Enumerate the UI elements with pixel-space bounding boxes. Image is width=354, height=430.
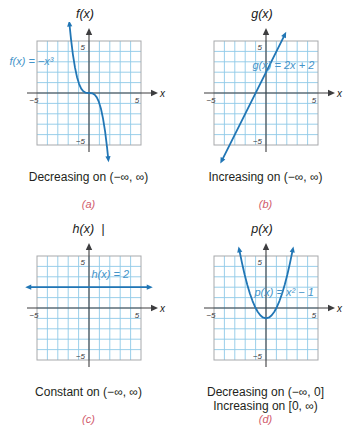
caption-line: Increasing on (−∞, ∞) xyxy=(208,170,322,184)
x-min-tick: −5 xyxy=(206,96,216,105)
equation-label: h(x) = 2 xyxy=(92,268,130,280)
caption-line: Constant on (−∞, ∞) xyxy=(35,385,142,399)
y-axis-arrow-icon xyxy=(262,243,268,250)
x-axis-arrow-icon xyxy=(151,305,158,311)
curve-arrow-icon xyxy=(25,285,31,290)
curve-arrow-icon xyxy=(146,285,152,290)
curve-arrow-icon xyxy=(289,246,294,252)
y-max-tick: 5 xyxy=(80,258,85,267)
curve-arrow-icon xyxy=(237,246,242,252)
graph-d-svg: −5 5 5 −5 x xyxy=(181,237,351,379)
x-axis-arrow-icon xyxy=(328,90,335,96)
y-max-tick: 5 xyxy=(257,258,262,267)
function-name: h(x) xyxy=(73,222,95,236)
panel-a: f(x) −5 5 5 −5 x f(x) = −x³ Decreasing o… xyxy=(0,0,177,215)
graph-c-svg: −5 5 5 −5 x xyxy=(4,237,174,379)
x-axis-label: x xyxy=(159,303,166,314)
y-axis-arrow-icon xyxy=(262,28,268,35)
curve-arrow-icon xyxy=(105,156,110,162)
panel-d: p(x) −5 5 5 −5 x p(x) = x² − 1 Decreasin… xyxy=(177,215,354,430)
y-max-tick: 5 xyxy=(80,43,85,52)
function-name: p(x) xyxy=(251,222,273,236)
function-name: f(x) xyxy=(76,7,94,21)
function-name: g(x) xyxy=(251,7,273,21)
curve-arrow-icon xyxy=(67,22,72,27)
y-min-tick: −5 xyxy=(75,352,85,361)
y-axis-title: f(x) xyxy=(76,6,101,22)
x-max-tick: 5 xyxy=(311,311,316,320)
x-max-tick: 5 xyxy=(311,96,316,105)
caption-line: Increasing on [0, ∞) xyxy=(207,399,324,413)
graph-a: −5 5 5 −5 x f(x) = −x³ xyxy=(4,22,174,164)
graph-a-svg: −5 5 5 −5 x xyxy=(4,22,174,164)
panel-letter: (c) xyxy=(82,413,95,425)
graph-c: −5 5 5 −5 x h(x) = 2 xyxy=(4,237,174,379)
function-graphs-figure: f(x) −5 5 5 −5 x f(x) = −x³ Decreasing o… xyxy=(0,0,354,430)
y-axis-title: p(x) xyxy=(251,221,280,237)
x-max-tick: 5 xyxy=(134,96,139,105)
panel-letter: (b) xyxy=(259,198,272,210)
x-max-tick: 5 xyxy=(134,311,139,320)
panel-letter: (d) xyxy=(259,413,272,425)
panel-letter: (a) xyxy=(82,198,95,210)
stray-mark: | xyxy=(101,222,104,236)
y-axis-title: h(x)| xyxy=(73,221,105,237)
equation-label: g(x) = 2x + 2 xyxy=(253,59,315,71)
caption-line: Decreasing on (−∞, 0] xyxy=(207,385,324,399)
graph-b-svg: −5 5 5 −5 x xyxy=(181,22,351,164)
y-axis-arrow-icon xyxy=(85,28,91,35)
caption: Decreasing on (−∞, ∞) xyxy=(29,170,149,198)
y-max-tick: 5 xyxy=(257,43,262,52)
x-axis-label: x xyxy=(159,88,166,99)
x-min-tick: −5 xyxy=(29,311,39,320)
graph-d: −5 5 5 −5 x p(x) = x² − 1 xyxy=(181,237,351,379)
x-axis-arrow-icon xyxy=(328,305,335,311)
y-min-tick: −5 xyxy=(252,137,262,146)
equation-label: p(x) = x² − 1 xyxy=(255,286,314,298)
x-min-tick: −5 xyxy=(206,311,216,320)
x-min-tick: −5 xyxy=(29,96,39,105)
caption: Constant on (−∞, ∞) xyxy=(35,385,142,413)
graph-b: −5 5 5 −5 x g(x) = 2x + 2 xyxy=(181,22,351,164)
caption: Decreasing on (−∞, 0] Increasing on [0, … xyxy=(207,385,324,413)
equation-label: f(x) = −x³ xyxy=(10,55,54,67)
panel-c: h(x)| −5 5 5 −5 x h(x) = 2 Constant on (… xyxy=(0,215,177,430)
x-axis-label: x xyxy=(336,88,343,99)
y-min-tick: −5 xyxy=(75,137,85,146)
caption-line: Decreasing on (−∞, ∞) xyxy=(29,170,149,184)
y-axis-arrow-icon xyxy=(85,243,91,250)
x-axis-label: x xyxy=(336,303,343,314)
x-axis-arrow-icon xyxy=(151,90,158,96)
caption: Increasing on (−∞, ∞) xyxy=(208,170,322,198)
panel-b: g(x) −5 5 5 −5 x g(x) = 2x + 2 Increasin… xyxy=(177,0,354,215)
y-axis-title: g(x) xyxy=(251,6,280,22)
y-min-tick: −5 xyxy=(252,352,262,361)
